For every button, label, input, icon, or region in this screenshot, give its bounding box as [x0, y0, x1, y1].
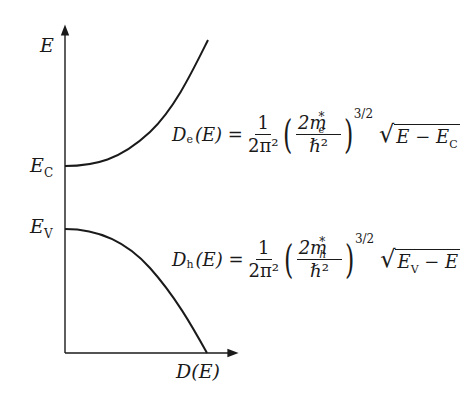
eq-e-prefactor-num: 1 — [255, 113, 270, 135]
eq-e-power: 3/2 — [354, 107, 373, 121]
electron-dos-equation: De (E) = 1 2π² ( 2m*e ℏ² ) 3/2 √ E − EC — [172, 113, 460, 156]
eq-e-sqrt: √ E − EC — [379, 122, 460, 146]
ec-subscript: C — [44, 166, 53, 180]
eq-h-prefactor: 1 2π² — [247, 238, 282, 281]
ec-label: EC — [30, 156, 53, 175]
eq-e-mass-num: 2m*e — [296, 113, 341, 135]
eq-e-lhs: D — [172, 124, 186, 145]
eq-h-mass-num: 2m*h — [297, 238, 343, 260]
ev-subscript: V — [44, 227, 53, 241]
eq-e-prefactor: 1 2π² — [246, 113, 281, 156]
ec-symbol: E — [30, 154, 44, 176]
ev-label: EV — [30, 217, 53, 236]
eq-h-sqrt: √ EV − E — [380, 247, 460, 271]
eq-e-prefactor-den: 2π² — [246, 135, 281, 156]
eq-h-arg: (E) = — [196, 249, 244, 270]
eq-h-mass-fraction: 2m*h ℏ² — [297, 238, 343, 281]
x-axis-label: D(E) — [176, 362, 220, 381]
eq-h-lhs: D — [172, 249, 186, 270]
eq-e-mass-fraction: 2m*e ℏ² — [296, 113, 341, 156]
eq-e-mass-den: ℏ² — [307, 135, 330, 156]
hole-dos-equation: Dh (E) = 1 2π² ( 2m*h ℏ² ) 3/2 √ EV − E — [172, 238, 460, 281]
eq-e-lhs-sub: e — [186, 133, 193, 146]
dos-diagram — [0, 0, 473, 400]
y-axis-label: E — [40, 36, 54, 55]
eq-h-mass-den: ℏ² — [308, 260, 331, 281]
eq-h-lhs-sub: h — [186, 258, 193, 271]
eq-h-power: 3/2 — [355, 232, 374, 246]
ev-symbol: E — [30, 215, 44, 237]
eq-h-prefactor-num: 1 — [256, 238, 271, 260]
eq-e-arg: (E) = — [195, 124, 243, 145]
eq-h-prefactor-den: 2π² — [247, 260, 282, 281]
